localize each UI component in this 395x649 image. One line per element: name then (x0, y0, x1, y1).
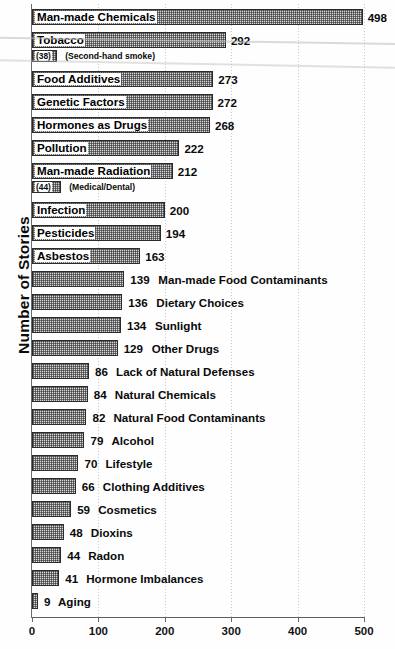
x-tick-label-300: 300 (211, 625, 251, 637)
bar-category-label: Radon (88, 549, 124, 562)
bar-value-label: 273 (218, 73, 237, 86)
x-tick-label-500: 500 (344, 625, 384, 637)
sub-bar-value-label: (44) (35, 182, 52, 192)
bar-value-label: 212 (178, 165, 197, 178)
bar-row: 44Radon (32, 547, 364, 563)
sub-bar-note: (Medical/Dental) (69, 182, 135, 192)
bar-value-label: 134 (127, 319, 146, 332)
bar-category-label: Genetic Factors (35, 96, 126, 108)
gridline-500 (364, 4, 365, 618)
bar-value-label: 9 (44, 595, 50, 608)
bar-value-label: 48 (70, 526, 83, 539)
bar-value-label: 86 (95, 365, 108, 378)
bar-row: 129Other Drugs (32, 340, 364, 356)
bar-category-label: Natural Food Contaminants (113, 411, 265, 424)
x-tick-200 (165, 617, 166, 622)
bar-row: Pollution222 (32, 140, 364, 156)
bar[interactable] (32, 409, 86, 425)
bar-row: 59Cosmetics (32, 501, 364, 517)
bar-row: 70Lifestyle (32, 455, 364, 471)
bar[interactable] (32, 570, 59, 586)
bar-category-label: Lifestyle (105, 457, 152, 470)
bar-row: 84Natural Chemicals (32, 386, 364, 402)
bar-value-label: 139 (130, 273, 149, 286)
bar-category-label: Pollution (35, 142, 88, 154)
bar[interactable] (32, 340, 118, 356)
bar-category-label: Tobacco (35, 34, 85, 46)
bar[interactable] (32, 501, 71, 517)
bar-category-label: Asbestos (35, 250, 90, 262)
bar-value-label: 59 (77, 503, 90, 516)
bar-row: 9Aging (32, 593, 364, 609)
bar-row: 66Clothing Additives (32, 478, 364, 494)
bar[interactable] (32, 317, 121, 333)
bar-value-label: 66 (82, 480, 95, 493)
bar-row: 139Man-made Food Contaminants (32, 271, 364, 287)
bar-value-label: 163 (145, 250, 164, 263)
bar-row: 134Sunlight (32, 317, 364, 333)
x-tick-label-0: 0 (12, 625, 52, 637)
bar-row: Man-made Chemicals498 (32, 9, 364, 25)
bar-row: 41Hormone Imbalances (32, 570, 364, 586)
bar-value-label: 41 (65, 572, 78, 585)
bar-category-label: Dioxins (91, 526, 133, 539)
bar-row: Food Additives273 (32, 71, 364, 87)
bar-category-label: Alcohol (111, 434, 154, 447)
bar[interactable] (32, 593, 38, 609)
x-tick-300 (231, 617, 232, 622)
bar-value-label: 498 (368, 11, 387, 24)
bar-category-label: Dietary Choices (156, 296, 244, 309)
bar-value-label: 84 (94, 388, 107, 401)
bar-row: Pesticides194 (32, 225, 364, 241)
sub-bar-value-label: (38) (35, 51, 52, 61)
bar[interactable] (32, 386, 88, 402)
bar-value-label: 79 (90, 434, 103, 447)
x-tick-100 (98, 617, 99, 622)
sub-bar-row: (44)(Medical/Dental) (32, 181, 364, 193)
y-axis-line (31, 4, 32, 618)
bar[interactable] (32, 363, 89, 379)
bar[interactable] (32, 547, 61, 563)
bar-category-label: Sunlight (155, 319, 201, 332)
bar-category-label: Infection (35, 204, 86, 216)
bar[interactable] (32, 271, 124, 287)
bar-value-label: 70 (84, 457, 97, 470)
x-axis-line (32, 617, 365, 618)
plot-area: Man-made Chemicals498Tobacco292(38)(Seco… (32, 4, 364, 618)
x-tick-500 (364, 617, 365, 622)
bar-value-label: 272 (218, 96, 237, 109)
bar-category-label: Man-made Radiation (35, 165, 151, 177)
bar-category-label: Hormone Imbalances (86, 572, 203, 585)
bar-category-label: Hormones as Drugs (35, 119, 148, 131)
x-tick-label-100: 100 (78, 625, 118, 637)
bar-category-label: Pesticides (35, 227, 95, 239)
bar-row: 79Alcohol (32, 432, 364, 448)
bar[interactable] (32, 432, 84, 448)
bar-value-label: 268 (215, 119, 234, 132)
bar[interactable] (32, 478, 76, 494)
bar-category-label: Other Drugs (152, 342, 220, 355)
bar-value-label: 200 (170, 204, 189, 217)
bar-category-label: Food Additives (35, 73, 121, 85)
bar-row: Man-made Radiation212 (32, 163, 364, 179)
bar[interactable] (32, 455, 78, 471)
bar-category-label: Man-made Chemicals (35, 11, 157, 23)
x-tick-label-200: 200 (145, 625, 185, 637)
bar-category-label: Cosmetics (98, 503, 157, 516)
bar-category-label: Man-made Food Contaminants (158, 273, 327, 286)
bar[interactable] (32, 524, 64, 540)
sub-bar-row: (38)(Second-hand smoke) (32, 50, 364, 62)
bar-row: Asbestos163 (32, 248, 364, 264)
sub-bar-note: (Second-hand smoke) (65, 51, 155, 61)
bar-category-label: Clothing Additives (103, 480, 205, 493)
bar-row: Hormones as Drugs268 (32, 117, 364, 133)
bar[interactable] (32, 294, 122, 310)
bar-category-label: Natural Chemicals (115, 388, 216, 401)
bar-category-label: Aging (58, 595, 91, 608)
bar-row: 136Dietary Choices (32, 294, 364, 310)
bar-value-label: 82 (92, 411, 105, 424)
bar-row: Tobacco292 (32, 32, 364, 48)
bar-value-label: 194 (166, 227, 185, 240)
bar-value-label: 222 (184, 142, 203, 155)
bar-row: 82Natural Food Contaminants (32, 409, 364, 425)
